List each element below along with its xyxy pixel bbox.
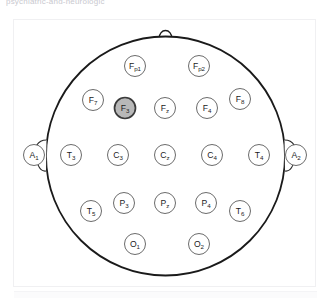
electrode-p3[interactable]: P3 — [114, 193, 135, 214]
eeg-electrode-diagram: Fp1Fp2F7F3FzF4F8A1T3C3CzC4T4A2T5P3PzP4T6… — [13, 19, 318, 289]
electrode-fz[interactable]: Fz — [155, 98, 176, 119]
electrode-f8[interactable]: F8 — [230, 89, 251, 110]
top-caption-text: psychiatric-and-neurologic — [6, 0, 206, 8]
electrode-o2[interactable]: O2 — [189, 234, 210, 255]
electrode-f3[interactable]: F3 — [115, 98, 136, 119]
electrode-fp1[interactable]: Fp1 — [125, 56, 146, 77]
electrode-pz[interactable]: Pz — [155, 193, 176, 214]
screenshot-root: psychiatric-and-neurologic Fp1Fp2F7F3FzF… — [0, 0, 331, 302]
electrode-f7[interactable]: F7 — [83, 90, 104, 111]
electrode-t6[interactable]: T6 — [230, 201, 251, 222]
electrode-c4[interactable]: C4 — [202, 145, 223, 166]
electrode-a1[interactable]: A1 — [24, 145, 45, 166]
eeg-head-map-svg: Fp1Fp2F7F3FzF4F8A1T3C3CzC4T4A2T5P3PzP4T6… — [13, 19, 318, 289]
electrode-t4[interactable]: T4 — [249, 145, 270, 166]
electrode-o1[interactable]: O1 — [125, 234, 146, 255]
bottom-divider — [14, 291, 317, 298]
electrode-c3[interactable]: C3 — [108, 145, 129, 166]
electrode-p4[interactable]: P4 — [196, 193, 217, 214]
electrode-t5[interactable]: T5 — [81, 201, 102, 222]
electrode-a2[interactable]: A2 — [286, 145, 307, 166]
electrode-t3[interactable]: T3 — [61, 145, 82, 166]
electrode-fp2[interactable]: Fp2 — [189, 56, 210, 77]
electrode-f4[interactable]: F4 — [197, 98, 218, 119]
electrode-cz[interactable]: Cz — [155, 145, 176, 166]
